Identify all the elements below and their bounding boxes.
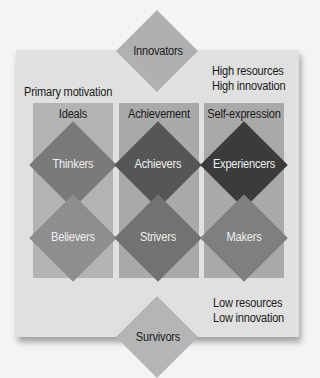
primary-motivation-label: Primary motivation bbox=[24, 85, 112, 100]
low-resources-note: Low resources Low innovation bbox=[213, 296, 284, 326]
achievers-label: Achievers bbox=[117, 157, 200, 171]
survivors-label: Survivors bbox=[117, 330, 200, 344]
thinkers-label: Thinkers bbox=[32, 157, 115, 171]
innovators-label: Innovators bbox=[117, 44, 200, 58]
strivers-label: Strivers bbox=[117, 230, 200, 244]
low-innovation-text: Low innovation bbox=[213, 311, 284, 326]
column-label-achievement: Achievement bbox=[122, 107, 196, 121]
high-resources-text: High resources bbox=[212, 64, 285, 79]
makers-label: Makers bbox=[203, 230, 286, 244]
high-resources-note: High resources High innovation bbox=[212, 64, 285, 94]
high-innovation-text: High innovation bbox=[212, 79, 285, 94]
experiencers-label: Experiencers bbox=[203, 157, 286, 171]
column-label-self-expression: Self-expression bbox=[207, 107, 281, 121]
low-resources-text: Low resources bbox=[213, 296, 284, 311]
column-label-ideals: Ideals bbox=[36, 107, 110, 121]
believers-label: Believers bbox=[32, 230, 115, 244]
